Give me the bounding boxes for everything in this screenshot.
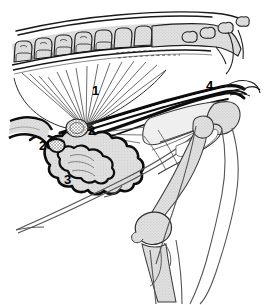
anatomy-figure: 1 2 2' 3 4 <box>0 0 268 305</box>
label-4: 4 <box>206 79 213 92</box>
label-1: 1 <box>92 84 99 97</box>
label-2: 2 <box>88 124 95 137</box>
stippled-ovoid-organ <box>66 119 88 137</box>
label-3: 3 <box>64 173 71 186</box>
label-2-prime: 2' <box>39 139 49 152</box>
